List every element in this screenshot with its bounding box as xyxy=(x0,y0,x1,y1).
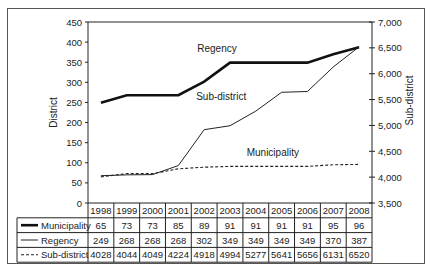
table-header-cell: 2004 xyxy=(245,205,266,216)
table-cell: 302 xyxy=(196,235,212,246)
table-cell: 91 xyxy=(225,220,236,231)
table-cell: 349 xyxy=(274,235,290,246)
table-cell: 85 xyxy=(173,220,184,231)
table-cell: 73 xyxy=(121,220,132,231)
table-row-label: Municipality xyxy=(41,220,91,231)
line-label-sub-district: Sub-district xyxy=(196,91,246,102)
left-tick-label: 200 xyxy=(66,117,82,128)
table-cell: 387 xyxy=(351,235,367,246)
table-cell: 4049 xyxy=(142,249,163,260)
line-labels: RegencySub-districtMunicipality xyxy=(196,43,299,158)
right-axis-title: Sub-district xyxy=(404,75,415,125)
table-cell: 5277 xyxy=(245,249,266,260)
right-tick-label: 4,000 xyxy=(378,172,402,183)
table-cell: 91 xyxy=(276,220,287,231)
table-cell: 65 xyxy=(96,220,107,231)
right-tick-label: 3,500 xyxy=(378,198,402,209)
table-cell: 268 xyxy=(170,235,186,246)
table-cell: 249 xyxy=(93,235,109,246)
table-cell: 4994 xyxy=(219,249,240,260)
table-header-cell: 2002 xyxy=(194,205,215,216)
table-cell: 91 xyxy=(251,220,262,231)
left-tick-label: 100 xyxy=(66,157,82,168)
table-row-label: Regency xyxy=(41,235,79,246)
left-tick-label: 450 xyxy=(66,17,82,28)
table-cell: 5656 xyxy=(297,249,318,260)
table-cell: 349 xyxy=(222,235,238,246)
line-label-municipality: Municipality xyxy=(247,147,299,158)
table-cell: 4918 xyxy=(194,249,215,260)
table-cell: 91 xyxy=(302,220,313,231)
data-table: 1998199920002001200220032004200520062007… xyxy=(17,203,372,262)
table-cell: 4224 xyxy=(168,249,189,260)
table-header-cell: 2006 xyxy=(297,205,318,216)
left-tick-label: 400 xyxy=(66,37,82,48)
left-axis-title: District xyxy=(48,97,59,128)
left-tick-label: 150 xyxy=(66,137,82,148)
table-row-label: Sub-district xyxy=(41,249,89,260)
right-tick-label: 4,500 xyxy=(378,146,402,157)
table-header-cell: 2001 xyxy=(168,205,189,216)
left-tick-label: 250 xyxy=(66,97,82,108)
table-cell: 4044 xyxy=(116,249,137,260)
table-cell: 89 xyxy=(199,220,210,231)
table-header-cell: 2003 xyxy=(219,205,240,216)
series-line-sub-district xyxy=(101,47,359,176)
table-cell: 96 xyxy=(354,220,365,231)
right-tick-label: 5,000 xyxy=(378,120,402,131)
series-lines xyxy=(101,47,359,177)
table-cell: 73 xyxy=(147,220,158,231)
table-cell: 349 xyxy=(248,235,264,246)
table-cell: 6131 xyxy=(323,249,344,260)
left-tick-label: 0 xyxy=(77,198,82,209)
table-cell: 6520 xyxy=(349,249,370,260)
table-cell: 4028 xyxy=(90,249,111,260)
left-tick-label: 350 xyxy=(66,57,82,68)
table-cell: 95 xyxy=(328,220,339,231)
line-label-regency: Regency xyxy=(197,43,236,54)
left-tick-label: 50 xyxy=(71,177,82,188)
table-header-cell: 1999 xyxy=(116,205,137,216)
right-tick-label: 6,000 xyxy=(378,68,402,79)
right-tick-label: 6,500 xyxy=(378,42,402,53)
chart: 0501001502002503003504004503,5004,0004,5… xyxy=(0,0,432,275)
table-cell: 268 xyxy=(119,235,135,246)
right-tick-label: 7,000 xyxy=(378,17,402,28)
table-cell: 349 xyxy=(300,235,316,246)
table-cell: 5641 xyxy=(271,249,292,260)
source-caption xyxy=(120,265,320,275)
table-header-cell: 2008 xyxy=(349,205,370,216)
table-cell: 370 xyxy=(325,235,341,246)
table-header-cell: 1998 xyxy=(90,205,111,216)
right-tick-label: 5,500 xyxy=(378,94,402,105)
left-tick-label: 300 xyxy=(66,77,82,88)
table-header-cell: 2005 xyxy=(271,205,292,216)
table-header-cell: 2000 xyxy=(142,205,163,216)
table-header-cell: 2007 xyxy=(323,205,344,216)
table-cell: 268 xyxy=(145,235,161,246)
